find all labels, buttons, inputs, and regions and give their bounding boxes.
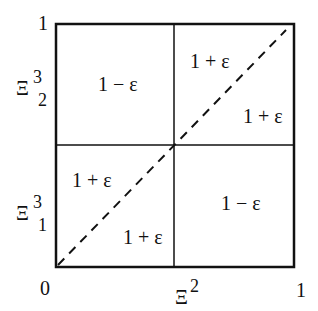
subscript: 2: [38, 91, 47, 109]
cell-top-right-upper: 1 + ε: [190, 51, 230, 71]
origin-tick-0: 0: [40, 278, 50, 298]
diagonal-dashed-line: [58, 30, 286, 265]
superscript: 2: [190, 277, 199, 295]
cell-bottom-left-lower: 1 + ε: [123, 227, 163, 247]
superscript: 3: [33, 68, 42, 86]
xi-symbol: Ξ: [16, 203, 29, 223]
subscript: 1: [38, 216, 47, 234]
cell-bottom-right: 1 − ε: [221, 193, 261, 213]
diagram-canvas: [0, 0, 318, 311]
xi-symbol: Ξ: [16, 78, 29, 98]
superscript: 3: [33, 193, 42, 211]
cell-bottom-left-upper: 1 + ε: [72, 170, 112, 190]
x-tick-1: 1: [296, 280, 306, 300]
cell-top-left: 1 − ε: [98, 74, 138, 94]
cell-top-right-lower: 1 + ε: [243, 106, 283, 126]
y-tick-1: 1: [38, 13, 48, 33]
xi-symbol: Ξ: [175, 287, 188, 307]
